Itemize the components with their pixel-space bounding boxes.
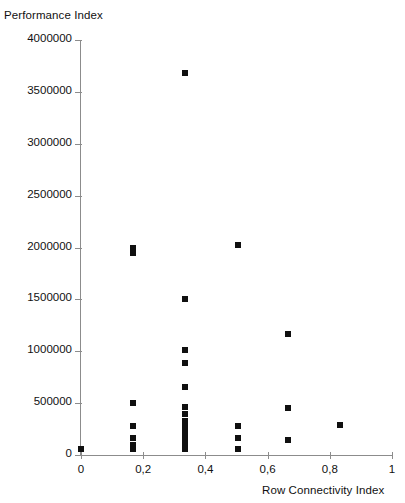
data-point [337, 422, 343, 428]
y-tick-label: 500000 [0, 395, 72, 407]
data-point [182, 347, 188, 353]
y-tick-label: 0 [0, 447, 72, 459]
x-tick-label: 0,8 [310, 463, 350, 475]
data-point [130, 446, 136, 452]
x-tick-label: 0,2 [123, 463, 163, 475]
data-point [130, 423, 136, 429]
y-tick-label: 4000000 [0, 32, 72, 44]
data-point [182, 404, 188, 410]
y-tick-label: 2000000 [0, 240, 72, 252]
data-point [182, 360, 188, 366]
data-point [130, 400, 136, 406]
y-tick-label: 1500000 [0, 291, 72, 303]
x-tick-label: 0,6 [248, 463, 288, 475]
y-tick-label: 3500000 [0, 84, 72, 96]
data-point [182, 446, 188, 452]
data-point [235, 435, 241, 441]
data-point [78, 446, 84, 452]
data-point [182, 296, 188, 302]
data-point [285, 405, 291, 411]
data-point [235, 423, 241, 429]
y-tick-label: 3000000 [0, 136, 72, 148]
scatter-chart: Performance Index Row Connectivity Index… [0, 0, 405, 503]
data-point [235, 242, 241, 248]
data-point [285, 331, 291, 337]
y-tick-label: 1000000 [0, 343, 72, 355]
x-tick-label: 0 [61, 463, 101, 475]
data-point [235, 446, 241, 452]
y-tick-label: 2500000 [0, 188, 72, 200]
x-tick-mark [392, 452, 393, 459]
data-point [182, 384, 188, 390]
data-point [130, 435, 136, 441]
plot-area [81, 40, 392, 455]
data-point [182, 70, 188, 76]
x-tick-label: 1 [372, 463, 405, 475]
data-point [182, 418, 188, 424]
x-tick-label: 0,4 [185, 463, 225, 475]
x-axis-line [81, 455, 393, 456]
data-point [182, 411, 188, 417]
data-point [285, 437, 291, 443]
y-axis-title: Performance Index [4, 9, 103, 21]
data-point [130, 250, 136, 256]
x-axis-title: Row Connectivity Index [262, 484, 384, 496]
